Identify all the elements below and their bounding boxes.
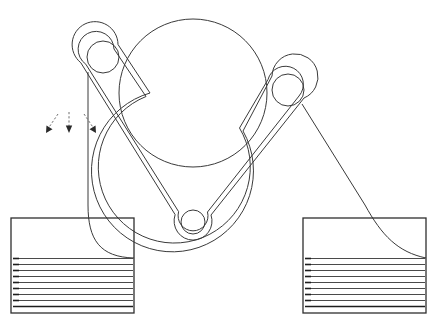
flow-arrow-left bbox=[46, 114, 58, 133]
belt-pulley-diagram bbox=[0, 0, 442, 321]
arrow-head-icon bbox=[46, 126, 53, 134]
arrow-shaft bbox=[84, 114, 94, 128]
diagram-canvas bbox=[0, 0, 442, 321]
right-stack-sheets bbox=[305, 259, 425, 307]
arrow-shaft bbox=[49, 114, 59, 128]
belt-loop bbox=[72, 22, 318, 252]
right-sheet-stack bbox=[303, 218, 426, 313]
arrow-head-icon bbox=[66, 126, 72, 134]
left-stack-box bbox=[11, 218, 134, 313]
flow-arrow-right bbox=[84, 114, 96, 133]
belt-outer-edge bbox=[72, 22, 318, 252]
left-sheet-stack bbox=[11, 218, 134, 313]
upper-right-pulley bbox=[272, 74, 304, 106]
right-web-feed-curve bbox=[302, 104, 426, 258]
left-web-feed-curve bbox=[88, 72, 134, 258]
flow-arrow-center bbox=[66, 112, 72, 133]
arrow-head-icon bbox=[90, 126, 97, 134]
main-drum bbox=[119, 19, 267, 167]
belt-inner-edge bbox=[78, 31, 303, 243]
upper-left-pulley bbox=[87, 41, 119, 73]
right-stack-box bbox=[303, 218, 426, 313]
left-stack-sheets bbox=[13, 259, 133, 307]
